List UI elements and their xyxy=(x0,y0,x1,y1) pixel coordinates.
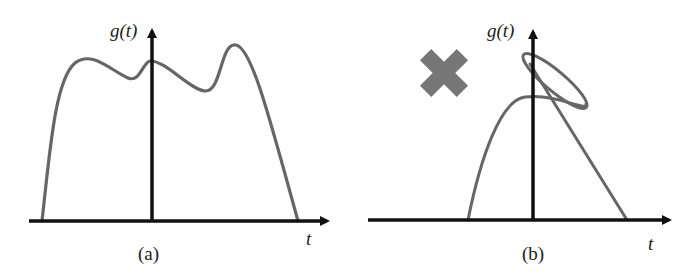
panel-b: g(t) t (b) xyxy=(368,20,669,265)
cross-mark-icon xyxy=(407,36,481,110)
function-diagram: g(t) t (a) g(t) t (b) xyxy=(0,0,698,278)
caption-a: (a) xyxy=(138,243,159,265)
x-axis-label-a: t xyxy=(306,228,312,249)
x-axis-label-b: t xyxy=(648,233,654,254)
curve-a xyxy=(42,45,298,221)
y-axis-label-a: g(t) xyxy=(110,20,137,42)
panel-a: g(t) t (a) xyxy=(29,20,327,265)
curve-b-arc xyxy=(468,96,586,220)
curve-b-descent xyxy=(530,64,627,220)
caption-b: (b) xyxy=(522,243,544,265)
y-axis-label-b: g(t) xyxy=(487,20,514,42)
